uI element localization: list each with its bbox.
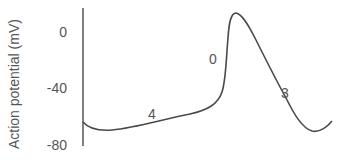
- phase-4-label: 4: [148, 106, 156, 122]
- action-potential-curve: [83, 13, 332, 131]
- phase-0-label: 0: [209, 51, 217, 67]
- phase-3-label: 3: [281, 85, 289, 101]
- chart-plot: [0, 0, 346, 162]
